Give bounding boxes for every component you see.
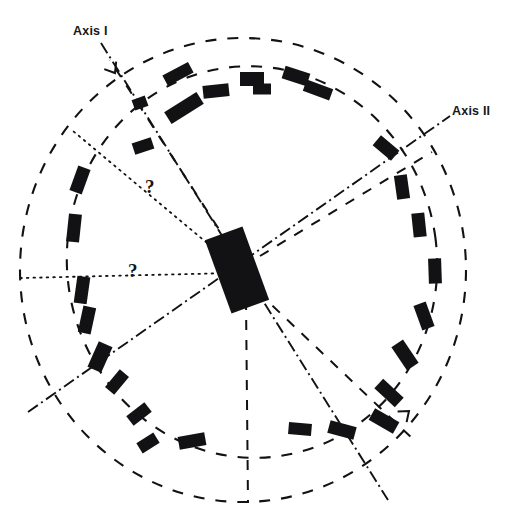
question-mark-upper: ? (145, 177, 155, 196)
question-mark-left: ? (128, 261, 138, 280)
grain-1 (132, 137, 155, 155)
angle-tick-bottom-right (398, 406, 414, 423)
grain-3 (162, 62, 193, 86)
grain-18 (288, 422, 312, 436)
grain-9 (373, 135, 400, 160)
grain-10 (394, 174, 410, 200)
grain-16 (369, 408, 400, 433)
dashed-rays-group (110, 60, 432, 503)
dashed-ray-upper-right (260, 152, 432, 256)
grain-26 (66, 213, 82, 242)
grain-12 (428, 258, 442, 283)
central-block (205, 227, 269, 314)
dotted-rays-group (21, 131, 237, 278)
grain-13 (413, 302, 434, 331)
grain-27 (69, 166, 90, 195)
grain-17 (327, 420, 356, 440)
grain-24 (78, 305, 96, 334)
axis-1-label: Axis I (73, 25, 108, 38)
grain-25 (74, 276, 91, 305)
grain-11 (411, 212, 426, 237)
grain-19 (178, 432, 207, 449)
grain-14 (391, 339, 418, 370)
grain-23 (87, 341, 112, 373)
grain-21 (126, 402, 152, 426)
grain-0 (164, 92, 204, 124)
grain-6 (253, 84, 271, 95)
dashed-ray-down (246, 300, 248, 503)
grain-8 (303, 80, 333, 101)
dotted-ray-left (21, 273, 233, 278)
figure-canvas: Axis I Axis II ? ? (0, 0, 506, 528)
grain-20 (136, 433, 159, 454)
axis-diagram-svg (0, 0, 506, 528)
central-block-group (205, 227, 269, 314)
angle-tick-group (104, 62, 413, 422)
axis-2-label: Axis II (452, 105, 490, 118)
angle-tick-bottom-right-glyph (398, 406, 414, 423)
grain-4 (202, 83, 229, 99)
